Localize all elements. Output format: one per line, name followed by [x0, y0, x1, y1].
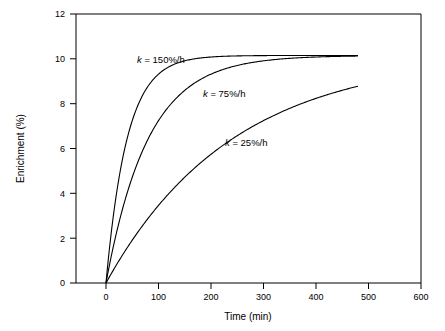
line-chart: 0 2 4 6 8 10 12 0 100 200 300 400 500 60… [0, 0, 445, 331]
axes [76, 14, 421, 283]
x-tick-label-0: 0 [103, 292, 108, 302]
x-axis-ticks [106, 283, 421, 289]
annotation-k-25-value: = 25%/h [230, 137, 268, 148]
annotation-k-150: k = 150%/h [137, 54, 185, 65]
y-tick-label-10: 10 [55, 54, 65, 64]
curve-annotations: k = 150%/h k = 75%/h k = 25%/h [137, 54, 268, 149]
x-tick-label-400: 400 [308, 292, 323, 302]
annotation-k-75: k = 75%/h [203, 88, 246, 99]
y-tick-label-4: 4 [60, 189, 65, 199]
y-tick-label-0: 0 [60, 278, 65, 288]
x-tick-label-100: 100 [151, 292, 166, 302]
x-tick-label-600: 600 [413, 292, 428, 302]
y-tick-label-6: 6 [60, 144, 65, 154]
y-tick-label-8: 8 [60, 99, 65, 109]
y-axis-tick-labels: 0 2 4 6 8 10 12 [55, 9, 65, 288]
curve-k-25 [106, 86, 358, 283]
x-tick-label-200: 200 [203, 292, 218, 302]
chart-container: 0 2 4 6 8 10 12 0 100 200 300 400 500 60… [0, 0, 445, 331]
annotation-k-75-value: = 75%/h [208, 88, 246, 99]
x-tick-label-500: 500 [361, 292, 376, 302]
annotation-k-150-value: = 150%/h [142, 54, 185, 65]
y-tick-label-2: 2 [60, 234, 65, 244]
y-axis-title: Enrichment (%) [15, 114, 26, 183]
y-axis-ticks [70, 14, 76, 283]
x-axis-title: Time (min) [224, 311, 271, 322]
x-axis-tick-labels: 0 100 200 300 400 500 600 [103, 292, 428, 302]
y-tick-label-12: 12 [55, 9, 65, 19]
annotation-k-25: k = 25%/h [225, 137, 268, 148]
x-tick-label-300: 300 [256, 292, 271, 302]
